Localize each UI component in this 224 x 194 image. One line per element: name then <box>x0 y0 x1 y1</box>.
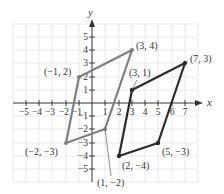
y-tick-label: 1 <box>83 85 88 95</box>
x-axis-arrow-icon <box>195 100 203 106</box>
x-tick-label: −4 <box>32 107 42 117</box>
y-tick-label: 4 <box>83 45 88 55</box>
point-label-5-neg3: (5, −3) <box>162 146 189 158</box>
y-tick-label: −4 <box>78 151 88 161</box>
coordinate-plane-svg: x y −5 −4 −3 −2 −1 1 2 3 4 5 <box>0 0 224 194</box>
y-tick-label: 3 <box>83 58 88 68</box>
x-tick-label: 3 <box>130 107 135 117</box>
x-tick-label: 4 <box>143 107 148 117</box>
y-tick-label: −1 <box>78 111 88 121</box>
x-tick-label: 5 <box>156 107 161 117</box>
point-label-neg2-neg3: (−2, −3) <box>25 146 58 158</box>
vertex-dot <box>156 141 160 145</box>
vertex-dot <box>64 141 68 145</box>
vertex-dot <box>130 48 134 52</box>
vertex-dot <box>183 61 187 65</box>
x-tick-label: −5 <box>19 107 29 117</box>
x-tick-label: 2 <box>117 107 122 117</box>
y-axis-label: y <box>87 6 93 18</box>
axes <box>13 24 198 182</box>
point-label-neg1-2: (−1, 2) <box>44 66 71 78</box>
point-label-3-1: (3, 1) <box>129 67 151 79</box>
y-tick-label: −2 <box>78 124 88 134</box>
x-axis-label: x <box>206 96 212 108</box>
x-tick-label: 1 <box>103 107 108 117</box>
y-tick-label: 5 <box>83 32 88 42</box>
coordinate-plane-figure: x y −5 −4 −3 −2 −1 1 2 3 4 5 <box>0 0 224 194</box>
x-tick-labels: −5 −4 −3 −2 −1 1 2 3 4 5 6 7 <box>19 107 188 117</box>
point-label-1-neg2: (1, −2) <box>97 177 124 189</box>
y-tick-label: −3 <box>78 138 88 148</box>
vertex-dot <box>117 154 121 158</box>
vertex-dot <box>77 75 81 79</box>
y-axis-arrow-icon <box>89 19 95 27</box>
point-label-3-4: (3, 4) <box>136 40 158 52</box>
x-tick-label: 7 <box>183 107 188 117</box>
y-tick-label: −5 <box>78 164 88 174</box>
point-label-7-3: (7, 3) <box>190 53 212 65</box>
x-tick-label: −2 <box>59 107 69 117</box>
point-label-2-neg4: (2, −4) <box>122 160 149 172</box>
x-tick-label: −3 <box>45 107 55 117</box>
